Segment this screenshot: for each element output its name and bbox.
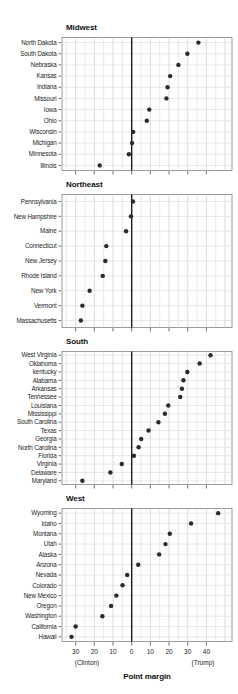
panel-title-midwest: Midwest xyxy=(66,22,238,33)
dot-plot-page: { "chart_data": { "type": "scatter", "su… xyxy=(0,0,238,694)
state-label: Ohio xyxy=(44,117,57,124)
x-tick-label: 30 xyxy=(72,648,80,655)
data-point-dot xyxy=(124,229,128,233)
data-point-dot xyxy=(185,370,189,374)
state-label: New York xyxy=(31,287,57,294)
election-margin-dot-plot: Midwest North DakotaSouth DakotaNebraska… xyxy=(0,22,238,694)
clinton-axis-annotation: (Clinton) xyxy=(75,659,100,667)
state-label: New Mexico xyxy=(24,592,57,599)
x-tick-label: 20 xyxy=(165,648,173,655)
state-label: Minnesota xyxy=(29,150,57,157)
state-label: Vermont xyxy=(34,302,57,309)
data-point-dot xyxy=(104,244,108,248)
trump-axis-annotation: (Trump) xyxy=(192,659,215,667)
data-point-dot xyxy=(168,532,172,536)
data-point-dot xyxy=(136,445,140,449)
data-point-dot xyxy=(189,521,193,525)
data-point-dot xyxy=(168,74,172,78)
data-point-dot xyxy=(69,635,73,639)
data-point-dot xyxy=(156,420,160,424)
state-label: Iowa xyxy=(44,106,57,113)
data-point-dot xyxy=(132,453,136,457)
data-point-dot xyxy=(108,470,112,474)
state-label: California xyxy=(31,623,57,630)
data-point-dot xyxy=(196,40,200,44)
x-tick-label: 0 xyxy=(130,648,134,655)
panel-west: West WyomingIdahoMontanaUtahAlaskaArizon… xyxy=(0,493,238,694)
data-point-dot xyxy=(131,130,135,134)
state-label: Missouri xyxy=(34,95,56,102)
state-label: Maine xyxy=(40,227,57,234)
state-label: South Carolina xyxy=(17,418,57,425)
state-label: Wisconsin xyxy=(29,128,57,135)
data-point-dot xyxy=(208,353,212,357)
panel-title-northeast: Northeast xyxy=(66,179,238,190)
x-tick-label: 40 xyxy=(203,648,211,655)
data-point-dot xyxy=(131,199,135,203)
data-point-dot xyxy=(180,386,184,390)
state-label: Rhode Island xyxy=(21,272,57,279)
panel-plot-south: West VirginiaOklahomakentuckyAlabamaArka… xyxy=(0,351,238,491)
data-point-dot xyxy=(98,163,102,167)
state-label: Nebraska xyxy=(31,61,57,68)
data-point-dot xyxy=(120,583,124,587)
data-point-dot xyxy=(163,542,167,546)
state-label: Florida xyxy=(38,452,57,459)
state-label: Washington xyxy=(25,612,57,620)
data-point-dot xyxy=(101,274,105,278)
data-point-dot xyxy=(197,361,201,365)
state-label: Oklahoma xyxy=(29,360,57,367)
state-label: Mississippi xyxy=(28,410,57,418)
data-point-dot xyxy=(80,479,84,483)
panel-title-west: West xyxy=(66,493,238,504)
panel-plot-west: WyomingIdahoMontanaUtahAlaskaArizonaNeva… xyxy=(0,508,238,694)
data-point-dot xyxy=(178,395,182,399)
data-point-dot xyxy=(164,96,168,100)
state-label: Georgia xyxy=(35,435,57,443)
data-point-dot xyxy=(109,604,113,608)
state-label: Arizona xyxy=(36,561,57,568)
data-point-dot xyxy=(100,614,104,618)
data-point-dot xyxy=(79,318,83,322)
state-label: South Dakota xyxy=(20,50,57,57)
state-label: Alabama xyxy=(33,377,57,384)
state-label: Utah xyxy=(44,540,57,547)
data-point-dot xyxy=(163,412,167,416)
data-point-dot xyxy=(145,119,149,123)
state-label: kentucky xyxy=(33,368,58,376)
data-point-dot xyxy=(165,85,169,89)
panel-title-south: South xyxy=(66,336,238,347)
state-label: North Carolina xyxy=(18,444,57,451)
data-point-dot xyxy=(176,63,180,67)
state-label: Virginia xyxy=(37,460,57,468)
x-axis-title: Point margin xyxy=(123,672,171,681)
data-point-dot xyxy=(130,141,134,145)
state-label: Arkansas xyxy=(31,385,56,392)
panel-plot-northeast: PennsylvaniaNew HampshireMaineConnecticu… xyxy=(0,194,238,334)
state-label: Wyoming xyxy=(31,509,57,517)
state-label: Indiana xyxy=(37,83,57,90)
state-label: Idaho xyxy=(41,520,57,527)
data-point-dot xyxy=(166,403,170,407)
state-label: Maryland xyxy=(32,477,57,485)
state-label: New Jersey xyxy=(25,257,57,265)
data-point-dot xyxy=(87,289,91,293)
state-label: Kansas xyxy=(36,72,56,79)
data-point-dot xyxy=(125,573,129,577)
state-label: Louisiana xyxy=(31,402,57,409)
state-label: Connecticut xyxy=(25,242,57,249)
data-point-dot xyxy=(216,511,220,515)
panel-midwest: Midwest North DakotaSouth DakotaNebraska… xyxy=(0,22,238,177)
data-point-dot xyxy=(146,428,150,432)
data-point-dot xyxy=(157,552,161,556)
state-label: Pennsylvania xyxy=(21,198,57,206)
panel-plot-midwest: North DakotaSouth DakotaNebraskaKansasIn… xyxy=(0,37,238,177)
data-point-dot xyxy=(136,562,140,566)
state-label: West Virginia xyxy=(22,351,58,359)
state-label: Texas xyxy=(41,427,57,434)
state-label: Alaska xyxy=(39,551,58,558)
state-label: Massachusetts xyxy=(16,317,56,324)
state-label: Nevada xyxy=(36,571,57,578)
state-label: Colorado xyxy=(32,582,57,589)
data-point-dot xyxy=(127,152,131,156)
